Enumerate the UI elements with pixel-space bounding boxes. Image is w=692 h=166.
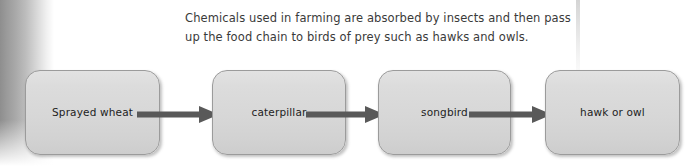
- flow-arrow-right-icon: [306, 106, 385, 123]
- flow-arrow-right-icon: [469, 106, 552, 123]
- flow-node-hawk-or-owl: hawk or owl: [545, 70, 680, 155]
- flow-node-label: Sprayed wheat: [52, 106, 133, 119]
- flow-node-label: caterpillar: [252, 106, 307, 119]
- diagram-page: Chemicals used in farming are absorbed b…: [0, 0, 692, 166]
- food-chain-flow: Sprayed wheat caterpillar songbird hawk …: [0, 0, 692, 166]
- flow-arrow-right-icon: [137, 106, 219, 123]
- flow-node-label: songbird: [421, 106, 468, 119]
- flow-node-label: hawk or owl: [580, 106, 645, 119]
